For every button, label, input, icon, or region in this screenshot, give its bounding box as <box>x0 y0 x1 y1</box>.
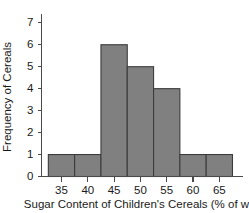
y-tick-label: 6 <box>27 38 33 50</box>
chart-canvas: 01234567 35404550556065 Sugar Content of… <box>0 0 249 213</box>
x-tick-label: 65 <box>213 184 226 196</box>
y-tick-label: 2 <box>27 126 33 138</box>
y-tick-label: 0 <box>27 170 33 182</box>
histogram-bar <box>180 155 206 177</box>
x-axis-title: Sugar Content of Children's Cereals (% o… <box>24 198 249 210</box>
x-tick-label: 40 <box>81 184 94 196</box>
histogram-bar <box>127 67 153 177</box>
x-tick-label: 35 <box>55 184 68 196</box>
y-tick-label: 5 <box>27 60 33 72</box>
x-tick-label: 50 <box>134 184 147 196</box>
y-axis-title: Frequency of Cereals <box>1 42 13 152</box>
x-tick-label: 45 <box>108 184 121 196</box>
x-tick-label: 60 <box>187 184 200 196</box>
histogram-figure: 01234567 35404550556065 Sugar Content of… <box>0 0 249 213</box>
histogram-bar <box>206 155 232 177</box>
y-tick-label: 7 <box>27 16 33 28</box>
histogram-bar <box>154 89 180 177</box>
histogram-bar <box>48 155 74 177</box>
x-tick-label: 55 <box>160 184 173 196</box>
y-tick-label: 4 <box>27 82 34 94</box>
histogram-bar <box>75 155 101 177</box>
y-tick-label: 1 <box>27 148 33 160</box>
y-tick-label: 3 <box>27 104 33 116</box>
histogram-bar <box>101 45 127 177</box>
